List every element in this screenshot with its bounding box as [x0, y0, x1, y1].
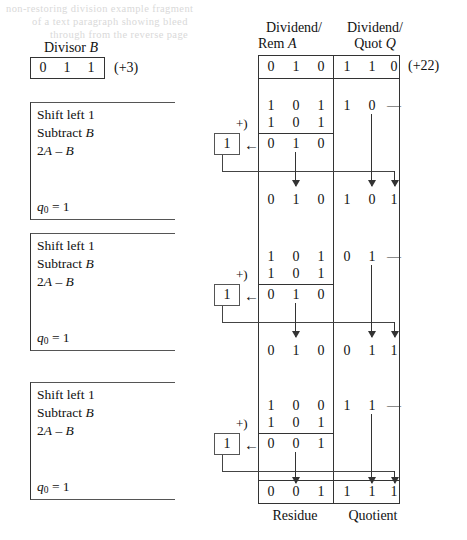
step-2-q0-value: = 1 — [49, 330, 70, 345]
final-a-bit-1: 0 — [287, 485, 305, 499]
step-1-shift-label: Shift left 1 — [37, 107, 95, 123]
step-3-sum-rule — [258, 433, 334, 434]
table-mid-divider-3 — [333, 284, 334, 433]
initial-q-bit-1: 1 — [363, 60, 381, 74]
header-rem-a-line1: Dividend/ — [252, 20, 336, 36]
divisor-register: 0 1 1 — [30, 57, 105, 79]
table-mid-divider-2 — [333, 133, 334, 284]
step-3-addend-1: 0 — [287, 416, 305, 430]
step-2-expr-a: A — [44, 274, 52, 289]
header-rem-a-var: A — [288, 36, 297, 51]
step-2-sum-rule — [258, 284, 334, 285]
step-1-carry-arrow-icon: ← — [244, 138, 259, 153]
divisor-bit-1: 1 — [59, 60, 75, 76]
step-2-arrow-a — [295, 303, 296, 337]
step-1-next-a-1: 1 — [287, 193, 305, 207]
divisor-bit-0: 0 — [35, 60, 51, 76]
step-1-arrow-a — [295, 152, 296, 186]
step-3-subtract-text: Subtract — [37, 405, 82, 420]
step-3-expr-op: – — [52, 423, 66, 438]
step-1-next-q-0: 1 — [338, 193, 356, 207]
step-3-carry-arrow-icon: ← — [244, 438, 259, 453]
divisor-label-variable: B — [90, 40, 99, 55]
step-2-wire-across — [222, 322, 394, 323]
step-3-addend-0: 1 — [262, 416, 280, 430]
step-3-expr-coef: 2 — [37, 423, 44, 438]
step-3-shifted-q-1: 1 — [363, 399, 381, 413]
step-2-shifted-a-0: 1 — [262, 250, 280, 264]
header-rem-a-line2: Rem A — [252, 36, 336, 52]
step-3-plus-marker: +) — [236, 416, 248, 432]
step-block-1: Shift left 1 Subtract B 2A – B q0 = 1 — [30, 102, 175, 220]
step-1-shifted-a-1: 0 — [287, 99, 305, 113]
initial-a-bit-2: 0 — [312, 60, 330, 74]
step-2-q0-symbol: q — [37, 330, 44, 345]
step-3-wire-across — [222, 471, 394, 472]
step-2-shifted-a-1: 0 — [287, 250, 305, 264]
step-2-shifted-a-2: 1 — [312, 250, 330, 264]
step-3-q0-value: = 1 — [49, 479, 70, 494]
step-1-q0-label: q0 = 1 — [37, 199, 70, 215]
step-2-arrow-q — [371, 265, 372, 337]
dividend-decimal-value: (+22) — [408, 58, 439, 74]
step-block-2: Shift left 1 Subtract B 2A – B q0 = 1 — [30, 233, 175, 351]
step-2-subtract-label: Subtract B — [37, 256, 94, 272]
step-3-subtract-var: B — [85, 405, 93, 420]
divisor-bit-2: 1 — [83, 60, 99, 76]
final-a-bit-2: 1 — [312, 485, 330, 499]
step-2-addend-0: 1 — [262, 267, 280, 281]
step-3-shift-label: Shift left 1 — [37, 387, 95, 403]
final-q-bit-0: 1 — [338, 485, 356, 499]
step-3-q0-symbol: q — [37, 479, 44, 494]
step-2-next-a-1: 1 — [287, 344, 305, 358]
step-1-addend-2: 1 — [312, 116, 330, 130]
final-q-bit-1: 1 — [363, 485, 381, 499]
step-3-arrow-q — [371, 414, 372, 483]
step-2-next-q-1: 1 — [363, 344, 381, 358]
step-2-wire-down — [222, 306, 223, 322]
step-2-result-a-1: 1 — [287, 288, 305, 302]
step-2-carry-arrow-icon: ← — [244, 289, 259, 304]
step-1-next-q-2: 1 — [385, 193, 403, 207]
step-2-result-a-2: 0 — [312, 288, 330, 302]
step-3-shifted-q-2: — — [385, 399, 403, 413]
step-3-shifted-a-0: 1 — [262, 399, 280, 413]
step-2-next-a-2: 0 — [312, 344, 330, 358]
initial-q-bit-0: 1 — [338, 60, 356, 74]
step-1-next-q-1: 0 — [363, 193, 381, 207]
step-2-subtract-text: Subtract — [37, 256, 82, 271]
table-mid-divider-1 — [333, 55, 334, 133]
step-3-shifted-q-0: 1 — [338, 399, 356, 413]
step-3-carry-box: 1 — [214, 433, 240, 455]
step-1-expr-op: – — [52, 143, 66, 158]
step-2-shifted-q-1: 1 — [363, 250, 381, 264]
step-1-shifted-a-2: 1 — [312, 99, 330, 113]
header-quot-q: Dividend/ Quot Q — [333, 20, 417, 52]
table-mid-divider-4 — [333, 433, 334, 503]
step-3-result-a-1: 0 — [287, 437, 305, 451]
step-3-shifted-a-2: 0 — [312, 399, 330, 413]
step-1-next-a-0: 0 — [262, 193, 280, 207]
step-1-addend-1: 0 — [287, 116, 305, 130]
divisor-label-text: Divisor — [44, 40, 86, 55]
step-3-arrow-q-feedback — [394, 471, 395, 483]
step-1-subtract-var: B — [85, 125, 93, 140]
step-3-expression: 2A – B — [37, 423, 74, 439]
step-2-result-a-0: 0 — [262, 288, 280, 302]
step-2-shifted-q-2: — — [385, 250, 403, 264]
table-final-top-rule — [258, 480, 400, 481]
step-2-carry-box: 1 — [214, 284, 240, 306]
step-1-result-a-0: 0 — [262, 137, 280, 151]
step-1-expr-a: A — [44, 143, 52, 158]
step-1-arrow-q — [371, 114, 372, 186]
step-3-shifted-a-1: 0 — [287, 399, 305, 413]
step-1-q0-symbol: q — [37, 199, 44, 214]
step-block-3: Shift left 1 Subtract B 2A – B q0 = 1 — [30, 382, 175, 500]
step-2-shifted-q-0: 0 — [338, 250, 356, 264]
step-1-wire-across — [222, 171, 394, 172]
step-1-shifted-q-1: 0 — [363, 99, 381, 113]
step-1-plus-marker: +) — [236, 116, 248, 132]
step-3-addend-2: 1 — [312, 416, 330, 430]
step-3-q0-label: q0 = 1 — [37, 479, 70, 495]
header-rem-a-text: Rem — [258, 36, 284, 51]
